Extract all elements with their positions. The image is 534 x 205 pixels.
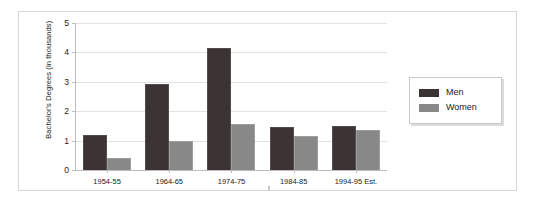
legend-swatch-men-icon <box>419 89 439 97</box>
y-axis-tick-label: 2 <box>64 107 69 116</box>
legend-item-men[interactable]: Men <box>419 85 492 100</box>
bar-group: 1994-95 Est. <box>325 23 387 170</box>
x-axis-tick <box>231 170 232 173</box>
chart-legend: Men Women <box>409 77 502 124</box>
y-axis-title: Bachelor's Degrees (in thousands) <box>45 5 53 155</box>
x-axis-tick-label: 1964-65 <box>156 178 184 186</box>
bar-group-bars <box>325 23 387 170</box>
y-axis-tick-label: 3 <box>64 78 69 87</box>
x-axis-tick-label: 1954-55 <box>93 178 121 186</box>
bar-group-bars <box>200 23 262 170</box>
bar-men-1994-95-est-[interactable] <box>332 126 356 170</box>
bar-group: 1964-65 <box>138 23 200 170</box>
y-axis-tick <box>72 170 76 171</box>
bar-group-bars <box>263 23 325 170</box>
bar-women-1954-55[interactable] <box>107 158 131 170</box>
bar-men-1954-55[interactable] <box>83 135 107 170</box>
bar-men-1974-75[interactable] <box>207 48 231 170</box>
x-axis-tick <box>107 170 108 173</box>
x-axis-tick-label: 1994-95 Est. <box>335 178 378 186</box>
y-axis-tick-label: 4 <box>64 48 69 57</box>
chart-frame: Bachelor's Degrees (in thousands) 012345… <box>18 11 517 191</box>
bar-group: 1984-85 <box>263 23 325 170</box>
bar-women-1994-95-est-[interactable] <box>356 130 380 170</box>
y-axis-tick-label: 0 <box>64 166 69 175</box>
bar-group: 1954-55 <box>76 23 138 170</box>
y-axis-tick-label: 5 <box>64 19 69 28</box>
legend-label-women: Women <box>446 103 477 112</box>
x-axis-tick-label: 1984-85 <box>280 178 308 186</box>
bar-women-1974-75[interactable] <box>231 124 255 170</box>
page-artifact-mark <box>268 186 270 191</box>
legend-item-women[interactable]: Women <box>419 100 492 115</box>
bar-women-1964-65[interactable] <box>169 141 193 170</box>
x-axis-tick <box>169 170 170 173</box>
legend-label-men: Men <box>446 88 464 97</box>
x-axis-tick <box>294 170 295 173</box>
x-axis-tick-label: 1974-75 <box>218 178 246 186</box>
bar-men-1964-65[interactable] <box>145 84 169 170</box>
bar-women-1984-85[interactable] <box>294 136 318 170</box>
bar-men-1984-85[interactable] <box>270 127 294 171</box>
legend-swatch-women-icon <box>419 104 439 112</box>
screenshot-root: Bachelor's Degrees (in thousands) 012345… <box>0 0 534 205</box>
y-axis-tick-label: 1 <box>64 136 69 145</box>
plot-area: 0123451954-551964-651974-751984-851994-9… <box>75 23 387 171</box>
bar-group: 1974-75 <box>200 23 262 170</box>
bar-group-bars <box>138 23 200 170</box>
bar-group-bars <box>76 23 138 170</box>
x-axis-tick <box>356 170 357 173</box>
